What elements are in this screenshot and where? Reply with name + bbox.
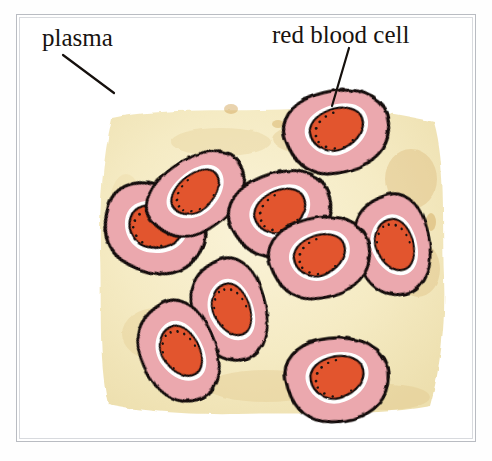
top-text-sliver — [8, 0, 98, 6]
label-plasma: plasma — [42, 24, 113, 52]
figure-canvas: .memb{fill:#eba8ae;stroke:#120d0b;stroke… — [0, 0, 492, 461]
plasma-leader-line — [63, 55, 114, 93]
blood-illustration: .memb{fill:#eba8ae;stroke:#120d0b;stroke… — [16, 14, 476, 442]
label-red-blood-cell: red blood cell — [272, 21, 409, 49]
